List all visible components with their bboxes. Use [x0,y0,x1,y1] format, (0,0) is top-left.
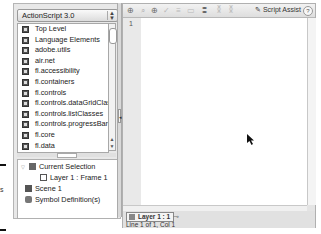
callout-char: s [0,186,4,193]
toolbox-scrollbar[interactable]: ▲ ▼ [108,23,116,151]
show-code-hint-icon[interactable]: ▭ [186,6,195,15]
find-icon[interactable]: ⌕ [138,6,147,15]
toolbox-item-label: fl.controls.progressBarCl [35,119,109,128]
selection-icon [29,163,36,170]
debug-options-icon[interactable]: ⵓ [198,6,210,15]
dropdown-arrows-icon: ▲▼ [107,11,116,20]
tree-item-label: Symbol Definition(s) [35,195,100,204]
check-syntax-icon[interactable]: ✓ [162,6,171,15]
toolbox-item-label: adobe.utils [35,45,70,54]
splitter-grip[interactable] [57,153,77,158]
scrollbar-thumb[interactable] [109,28,117,44]
toolbox-item-label: air.net [35,56,55,65]
editor-vertical-scrollbar[interactable] [307,18,316,205]
scroll-down-arrow-icon[interactable]: ▼ [109,143,115,149]
editor-toolbar: ⊕ ⌕ ⊕ ✓ ≡ ▭ ⵓ ⁑ ⁑ ✎ Script Assist ? [123,4,315,18]
toolbox-item-label: fl.containers [35,77,74,86]
toolbox-item-label: fl.core [35,130,55,139]
book-icon [22,68,29,75]
add-statement-icon[interactable]: ⊕ [126,6,135,15]
frame-script-icon [40,174,47,181]
toolbox-item-fl-containers[interactable]: fl.containers [18,77,108,88]
toolbox-item-label: fl.accessibility [35,66,80,75]
editor-bottom-bar: Layer 1 : 1 ⊸ Line 1 of 1, Col 1 [123,211,315,228]
book-icon [22,58,29,65]
tree-item-label: Current Selection [39,162,95,171]
book-icon [22,111,29,118]
wand-icon: ✎ [255,6,261,13]
book-icon [22,79,29,86]
callout-mark [0,229,6,231]
collapse-arrow-icon[interactable]: ◂ [118,109,121,123]
tree-item-label: Layer 1 : Frame 1 [50,173,108,182]
script-editor-panel: ⊕ ⌕ ⊕ ✓ ≡ ▭ ⵓ ⁑ ⁑ ✎ Script Assist ? 1 La… [122,3,316,228]
toolbox-item-label: fl.controls [35,88,66,97]
tree-item-symbol-definitions[interactable]: Symbol Definition(s) [25,195,100,204]
toolbox-item-label: fl.controls.dataGridClass [35,98,109,107]
pin-script-icon[interactable]: ⊸ [173,213,179,221]
toolbox-item-label: Language Elements [35,35,100,44]
tree-item-layer-frame[interactable]: Layer 1 : Frame 1 [40,173,108,182]
code-editor-area[interactable] [141,18,307,205]
toolbox-item-fl-controls-progressbarcl[interactable]: fl.controls.progressBarCl [18,119,108,130]
book-icon [22,121,29,128]
tree-item-label: Scene 1 [35,184,62,193]
toolbox-item-fl-accessibility[interactable]: fl.accessibility [18,66,108,77]
insert-target-path-icon[interactable]: ⊕ [150,6,159,15]
toolbox-item-fl-data[interactable]: fl.data [18,141,108,152]
scene-icon [25,185,32,192]
toolbox-item-fl-controls-listclasses[interactable]: fl.controls.listClasses [18,109,108,120]
panel-splitter[interactable] [17,153,116,157]
book-icon [22,26,29,33]
auto-format-icon[interactable]: ≡ [174,6,183,15]
help-icon[interactable]: ? [303,6,313,16]
line-number-gutter: 1 [123,18,141,205]
book-icon [22,132,29,139]
scroll-up-arrow-icon[interactable]: ▲ [109,136,115,142]
tree-item-scene[interactable]: Scene 1 [25,184,62,193]
book-icon [22,47,29,54]
tree-item-current-selection[interactable]: ▽Current Selection [21,162,95,171]
status-line: Line 1 of 1, Col 1 [126,221,175,228]
book-icon [22,100,29,107]
toolbox-list: Top Level Language Elements adobe.utils … [17,23,109,153]
toolbox-item-fl-controls[interactable]: fl.controls [18,88,108,99]
line-number: 1 [129,20,133,27]
toolbox-item-top-level[interactable]: Top Level [18,24,108,35]
book-icon [22,90,29,97]
toolbox-item-fl-controls-datagridclass[interactable]: fl.controls.dataGridClass [18,98,108,109]
expand-triangle-icon[interactable]: ▽ [21,164,25,170]
collapse-selection-icon[interactable]: ⁑ [226,6,235,15]
language-dropdown[interactable]: ActionScript 3.0 ▲▼ [17,9,118,22]
script-tab-icon [129,214,135,220]
collapse-between-braces-icon[interactable]: ⁑ [214,6,223,15]
book-icon [22,143,29,150]
script-navigator: ▽Current Selection Layer 1 : Frame 1 Sce… [17,159,118,219]
toolbox-item-language-elements[interactable]: Language Elements [18,35,108,46]
toolbox-item-air-net[interactable]: air.net [18,56,108,67]
book-icon [22,37,29,44]
toolbox-item-label: fl.controls.listClasses [35,109,103,118]
callout-mark [0,164,6,166]
toolbox-item-adobe-utils[interactable]: adobe.utils [18,45,108,56]
script-tab-label: Layer 1 : 1 [138,213,170,220]
script-assist-button[interactable]: ✎ Script Assist [255,6,301,14]
symbol-icon [25,196,32,203]
language-dropdown-value: ActionScript 3.0 [22,11,75,20]
toolbox-item-label: Top Level [35,24,66,33]
script-assist-label: Script Assist [263,6,301,13]
toolbox-item-label: fl.data [35,141,55,150]
toolbox-item-fl-core[interactable]: fl.core [18,130,108,141]
actions-toolbox-panel: ActionScript 3.0 ▲▼ Top Level Language E… [13,3,121,219]
